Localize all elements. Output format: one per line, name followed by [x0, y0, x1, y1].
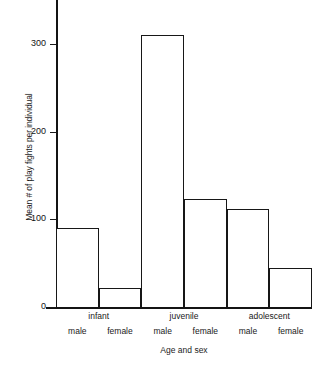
y-axis-tick-labels: 3002001000: [14, 0, 46, 376]
y-tick-mark-0: [50, 307, 56, 308]
x-axis-title: Age and sex: [56, 345, 312, 355]
y-tick-mark-100: [50, 219, 56, 220]
bar-juvenile-female: [184, 199, 227, 307]
y-tick-mark-300: [50, 44, 56, 45]
x-sex-label-adolescent-female: female: [269, 325, 312, 337]
y-tick-label-200: 200: [20, 127, 46, 136]
bar-infant-female: [99, 288, 142, 307]
y-tick-mark-200: [50, 132, 56, 133]
x-axis-group-labels: infantjuvenileadolescent: [56, 310, 312, 324]
bar-adolescent-male: [227, 209, 270, 307]
x-group-label-infant: infant: [56, 310, 141, 322]
x-sex-label-infant-male: male: [56, 325, 99, 337]
x-axis-sex-labels: malefemalemalefemalemalefemale: [56, 325, 312, 339]
x-sex-label-juvenile-male: male: [141, 325, 184, 337]
y-tick-label-100: 100: [20, 214, 46, 223]
y-tick-label-300: 300: [20, 39, 46, 48]
plot-area: [56, 0, 312, 307]
bar-juvenile-male: [141, 35, 184, 307]
bar-chart-figure: Mean # of play fights per individual 300…: [0, 0, 324, 376]
x-sex-label-adolescent-male: male: [227, 325, 270, 337]
y-tick-label-0: 0: [20, 302, 46, 311]
x-group-label-adolescent: adolescent: [227, 310, 312, 322]
x-sex-label-juvenile-female: female: [184, 325, 227, 337]
x-sex-label-infant-female: female: [99, 325, 142, 337]
x-axis-line: [46, 307, 312, 309]
bar-infant-male: [56, 228, 99, 307]
x-group-label-juvenile: juvenile: [141, 310, 226, 322]
bar-adolescent-female: [269, 268, 312, 307]
